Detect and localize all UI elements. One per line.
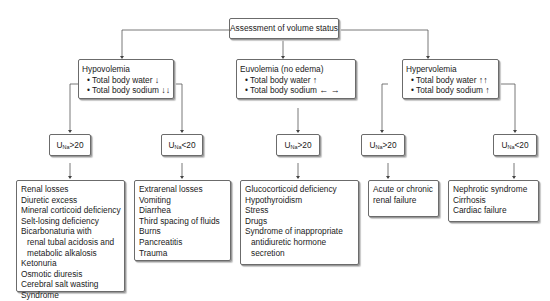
cause-item: metabolic alkalosis	[21, 248, 124, 259]
causes-hyper-other: Nephrotic syndromeCirrhosisCardiac failu…	[448, 180, 539, 222]
category-hypervolemia: Hypervolemia • Total body water ↑↑ • Tot…	[402, 59, 499, 99]
arrowhead	[68, 130, 72, 133]
connector-hypo-u1	[70, 84, 78, 132]
cause-item: Bicarbonaturia with	[21, 226, 124, 237]
cause-item: Hypothyroidism	[245, 195, 358, 206]
cause-item: Diuretic excess	[21, 195, 124, 206]
causes-hypo-renal: Renal lossesDiuretic excessMineral corti…	[16, 180, 125, 292]
bullet-water: • Total body water ↑	[240, 75, 355, 86]
bullet-sodium: • Total body sodium ↑	[406, 85, 498, 96]
cause-item: Burns	[139, 226, 230, 237]
arrowhead	[380, 130, 384, 133]
cause-group-title: Acute or chronic	[373, 184, 438, 195]
arrowhead	[180, 130, 184, 133]
cause-item: renal tubal acidosis and	[21, 237, 124, 248]
cause-item: Third spacing of fluids	[139, 216, 230, 227]
cause-item: Vomiting	[139, 195, 230, 206]
cause-item: secretion	[245, 248, 358, 259]
cause-group-title: Glucocorticoid deficiency	[245, 184, 358, 195]
arrowhead	[513, 130, 517, 133]
cause-item: Cerebral salt wasting	[21, 279, 124, 290]
cause-item: antidiuretic hormone	[245, 237, 358, 248]
cause-item: Selt-losing deficiency	[21, 216, 124, 227]
criterion-hypo-extrarenal: UNa<20	[161, 134, 203, 156]
cause-group-title: Extrarenal losses	[139, 184, 230, 195]
increase-arrow-icon: ↑	[485, 85, 490, 95]
cause-item: Syndrome	[21, 290, 124, 301]
cause-group-title: Nephrotic syndrome	[453, 184, 538, 195]
causes-hyper-renal: Acute or chronicrenal failure	[368, 180, 439, 217]
connector-hyper-u1	[382, 84, 388, 132]
unchanged-arrows-icon: ← →	[319, 85, 340, 95]
cause-item: Stress	[245, 205, 358, 216]
category-euvolemia: Euvolemia (no edema) • Total body water …	[236, 59, 356, 99]
cause-item: renal failure	[373, 195, 438, 206]
connector-hypo-u2	[174, 84, 182, 132]
cause-item: Ketonuria	[21, 258, 124, 269]
criterion-hyper-other: UNa<20	[493, 134, 537, 156]
connector-hyper-u2	[499, 84, 515, 132]
root-node: Assessment of volume status	[229, 18, 339, 39]
arrowhead	[386, 176, 390, 179]
category-hypovolemia: Hypovolemia • Total body water ↓ • Total…	[78, 59, 174, 99]
causes-euvolemia: Glucocorticoid deficiencyHypothyroidismS…	[240, 180, 359, 265]
increase-arrows-icon: ↑↑	[479, 75, 488, 85]
cause-item: Drugs	[245, 216, 358, 227]
decrease-arrow-icon: ↓	[155, 75, 160, 85]
root-label: Assessment of volume status	[230, 23, 338, 33]
increase-arrow-icon: ↑	[313, 75, 318, 85]
cause-item: Mineral corticoid deficiency	[21, 205, 124, 216]
arrowhead	[296, 176, 300, 179]
bullet-water: • Total body water ↑↑	[406, 75, 498, 86]
arrowhead	[296, 130, 300, 133]
cause-item: Trauma	[139, 248, 230, 259]
bullet-water: • Total body water ↓	[82, 75, 173, 86]
category-title: Euvolemia (no edema)	[240, 64, 355, 75]
cause-item: Cirrhosis	[453, 195, 538, 206]
arrowhead	[512, 176, 516, 179]
decrease-arrows-icon: ↓↓	[161, 85, 170, 95]
cause-item: Osmotic diuresis	[21, 269, 124, 280]
causes-hypo-extrarenal: Extrarenal lossesVomitingDiarrheaThird s…	[134, 180, 231, 261]
criterion-euvo: UNa>20	[276, 134, 320, 156]
bullet-sodium: • Total body sodium ← →	[240, 85, 355, 96]
criterion-hyper-renal: UNa>20	[361, 134, 405, 156]
bullet-sodium: • Total body sodium ↓↓	[82, 85, 173, 96]
connector-root-hyper	[338, 30, 428, 57]
criterion-hypo-renal: UNa>20	[49, 134, 91, 156]
cause-item: Diarrhea	[139, 205, 230, 216]
cause-item: Syndrome of inappropriate	[245, 226, 358, 237]
arrowhead	[180, 176, 184, 179]
category-title: Hypervolemia	[406, 64, 498, 75]
connector-root-hypo	[122, 30, 236, 57]
category-title: Hypovolemia	[82, 64, 173, 75]
cause-group-title: Renal losses	[21, 184, 124, 195]
arrowhead	[68, 176, 72, 179]
cause-item: Pancreatitis	[139, 237, 230, 248]
cause-item: Cardiac failure	[453, 205, 538, 216]
